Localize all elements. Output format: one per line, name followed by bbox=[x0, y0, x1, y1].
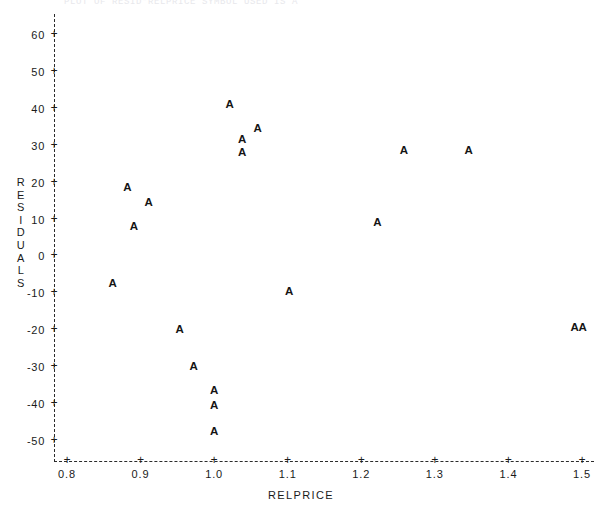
data-point: A bbox=[225, 99, 233, 111]
data-point: A bbox=[465, 146, 473, 158]
y-tick-label: 60 bbox=[31, 30, 45, 41]
y-axis-title-letter: L bbox=[14, 264, 28, 277]
y-axis-title: RESIDUALS bbox=[14, 176, 28, 289]
y-tick-label: -20 bbox=[27, 325, 45, 336]
x-tick-label: 1.4 bbox=[499, 469, 517, 480]
data-point: A bbox=[373, 217, 381, 229]
data-point: A bbox=[175, 325, 183, 337]
data-point: A bbox=[189, 361, 197, 373]
x-tick-mark: + bbox=[63, 455, 70, 467]
x-tick-label: 1.0 bbox=[205, 469, 223, 480]
y-tick-label: 40 bbox=[31, 103, 45, 114]
data-point: A bbox=[210, 400, 218, 412]
y-tick-mark: + bbox=[50, 361, 57, 373]
y-tick-mark: + bbox=[50, 287, 57, 299]
y-tick-mark: + bbox=[50, 398, 57, 410]
x-tick-label: 1.3 bbox=[426, 469, 444, 480]
y-axis-title-letter: D bbox=[14, 226, 28, 239]
x-tick-mark: + bbox=[137, 455, 144, 467]
y-axis-title-letter: I bbox=[14, 214, 28, 227]
y-axis-line bbox=[54, 14, 55, 462]
plot-caption: PLOT OF RESID*RELPRICE SYMBOL USED IS A bbox=[64, 0, 298, 7]
data-point: A bbox=[123, 182, 131, 194]
x-tick-mark: + bbox=[505, 455, 512, 467]
y-tick-label: 0 bbox=[38, 251, 45, 262]
y-tick-mark: + bbox=[50, 177, 57, 189]
x-tick-mark: + bbox=[431, 455, 438, 467]
x-tick-label: 1.1 bbox=[279, 469, 297, 480]
y-tick-mark: + bbox=[50, 250, 57, 262]
y-tick-mark: + bbox=[50, 66, 57, 78]
y-axis-title-letter: A bbox=[14, 252, 28, 265]
y-tick-label: 20 bbox=[31, 177, 45, 188]
x-axis-line bbox=[54, 461, 594, 462]
data-point: A bbox=[108, 278, 116, 290]
x-tick-label: 1.2 bbox=[352, 469, 370, 480]
y-tick-label: 30 bbox=[31, 140, 45, 151]
data-point: A bbox=[130, 221, 138, 233]
y-tick-mark: + bbox=[50, 140, 57, 152]
y-axis-title-letter: R bbox=[14, 176, 28, 189]
y-tick-label: -40 bbox=[27, 399, 45, 410]
x-tick-mark: + bbox=[578, 455, 585, 467]
x-tick-mark: + bbox=[358, 455, 365, 467]
data-point: A bbox=[570, 323, 578, 335]
y-tick-label: 10 bbox=[31, 214, 45, 225]
x-tick-label: 0.8 bbox=[58, 469, 76, 480]
data-point: A bbox=[238, 134, 246, 146]
y-tick-mark: + bbox=[50, 435, 57, 447]
x-tick-mark: + bbox=[284, 455, 291, 467]
y-tick-mark: + bbox=[50, 214, 57, 226]
y-tick-mark: + bbox=[50, 29, 57, 41]
y-tick-mark: + bbox=[50, 103, 57, 115]
y-axis-title-letter: S bbox=[14, 201, 28, 214]
y-axis-title-letter: E bbox=[14, 189, 28, 202]
x-tick-label: 0.9 bbox=[132, 469, 150, 480]
data-point: A bbox=[210, 426, 218, 438]
data-point: A bbox=[400, 146, 408, 158]
scatter-plot-canvas: PLOT OF RESID*RELPRICE SYMBOL USED IS A … bbox=[0, 0, 602, 512]
y-tick-label: -10 bbox=[27, 288, 45, 299]
y-tick-label: 50 bbox=[31, 66, 45, 77]
x-tick-label: 1.5 bbox=[573, 469, 591, 480]
y-axis-title-letter: U bbox=[14, 239, 28, 252]
data-point: A bbox=[285, 286, 293, 298]
data-point: A bbox=[253, 123, 261, 135]
y-tick-label: -50 bbox=[27, 436, 45, 447]
data-point: A bbox=[210, 385, 218, 397]
data-point: A bbox=[145, 197, 153, 209]
data-point: A bbox=[579, 323, 587, 335]
data-point: A bbox=[238, 147, 246, 159]
x-tick-mark: + bbox=[211, 455, 218, 467]
y-axis-title-letter: S bbox=[14, 277, 28, 290]
x-axis-title: RELPRICE bbox=[0, 489, 602, 501]
y-tick-label: -30 bbox=[27, 362, 45, 373]
y-tick-mark: + bbox=[50, 324, 57, 336]
